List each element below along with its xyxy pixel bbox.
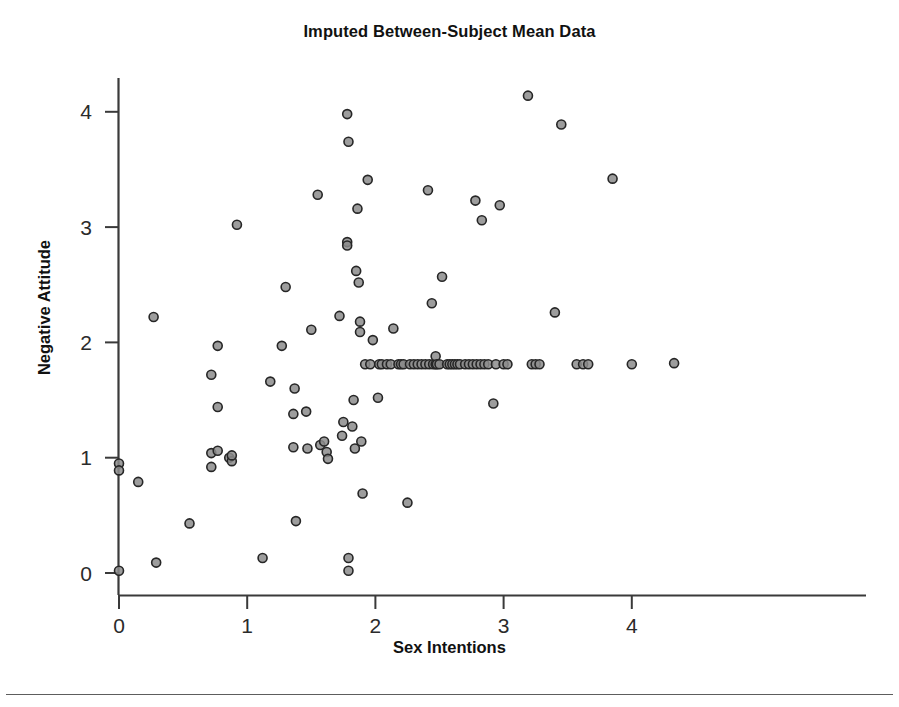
axes <box>118 78 866 596</box>
scatter-point <box>403 498 412 507</box>
x-tick-label: 4 <box>626 614 638 637</box>
scatter-point <box>358 489 367 498</box>
scatter-point <box>344 566 353 575</box>
scatter-point <box>670 359 679 368</box>
scatter-point <box>320 437 329 446</box>
scatter-point <box>352 266 361 275</box>
scatter-point <box>373 393 382 402</box>
bottom-divider <box>6 694 893 695</box>
scatter-point <box>232 220 241 229</box>
y-tick-label: 2 <box>80 331 92 354</box>
scatter-point <box>495 201 504 210</box>
x-tick-label: 3 <box>498 614 510 637</box>
y-tick-label: 0 <box>80 562 92 585</box>
scatter-point <box>550 308 559 317</box>
x-axis-label: Sex Intentions <box>0 638 899 657</box>
scatter-point <box>303 444 312 453</box>
scatter-point <box>343 110 352 119</box>
scatter-point <box>302 407 311 416</box>
scatter-point <box>134 477 143 486</box>
scatter-point <box>213 446 222 455</box>
scatter-point <box>258 554 267 563</box>
scatter-point <box>349 396 358 405</box>
scatter-point <box>289 443 298 452</box>
scatter-point <box>356 328 365 337</box>
scatter-point <box>368 336 377 345</box>
scatter-point <box>213 402 222 411</box>
scatter-point <box>354 278 363 287</box>
scatter-point <box>307 325 316 334</box>
scatter-point <box>323 454 332 463</box>
scatter-point <box>313 190 322 199</box>
scatter-point <box>627 360 636 369</box>
scatter-point <box>343 241 352 250</box>
scatter-point <box>608 174 617 183</box>
scatter-point <box>289 409 298 418</box>
scatter-plot: 01234 01234 <box>0 0 899 707</box>
scatter-point <box>584 360 593 369</box>
scatter-point <box>389 324 398 333</box>
scatter-point <box>338 431 347 440</box>
scatter-point <box>344 554 353 563</box>
y-tick-labels: 01234 <box>80 100 92 584</box>
scatter-point <box>277 341 286 350</box>
scatter-point <box>489 399 498 408</box>
scatter-point <box>366 360 375 369</box>
x-tick-label: 2 <box>370 614 382 637</box>
scatter-point <box>281 283 290 292</box>
scatter-point <box>363 175 372 184</box>
scatter-point <box>290 384 299 393</box>
scatter-point <box>185 519 194 528</box>
scatter-point <box>227 451 236 460</box>
scatter-point <box>115 566 124 575</box>
x-tick-marks <box>119 596 632 609</box>
scatter-point <box>535 360 544 369</box>
y-tick-marks <box>105 112 118 573</box>
scatter-point <box>523 91 532 100</box>
scatter-point <box>339 417 348 426</box>
x-tick-label: 0 <box>113 614 125 637</box>
y-tick-label: 1 <box>80 446 92 469</box>
scatter-point <box>207 462 216 471</box>
x-tick-label: 1 <box>241 614 253 637</box>
scatter-point <box>353 204 362 213</box>
scatter-point <box>348 422 357 431</box>
scatter-point <box>423 186 432 195</box>
scatter-point <box>344 137 353 146</box>
y-tick-label: 3 <box>80 216 92 239</box>
scatter-point <box>149 313 158 322</box>
data-points <box>115 91 679 575</box>
scatter-point <box>427 299 436 308</box>
scatter-point <box>438 272 447 281</box>
scatter-point <box>207 370 216 379</box>
scatter-point <box>152 558 161 567</box>
scatter-point <box>477 216 486 225</box>
scatter-point <box>213 341 222 350</box>
scatter-point <box>115 466 124 475</box>
y-axis-label: Negative Attitude <box>35 178 54 438</box>
scatter-point <box>266 377 275 386</box>
scatter-point <box>291 517 300 526</box>
y-tick-label: 4 <box>80 100 92 123</box>
scatter-point <box>335 311 344 320</box>
scatter-point <box>357 437 366 446</box>
scatter-point <box>557 120 566 129</box>
scatter-point <box>471 196 480 205</box>
scatter-point <box>503 360 512 369</box>
x-tick-labels: 01234 <box>113 614 638 637</box>
scatter-point <box>356 317 365 326</box>
figure-page: Imputed Between-Subject Mean Data 01234 … <box>0 0 899 707</box>
